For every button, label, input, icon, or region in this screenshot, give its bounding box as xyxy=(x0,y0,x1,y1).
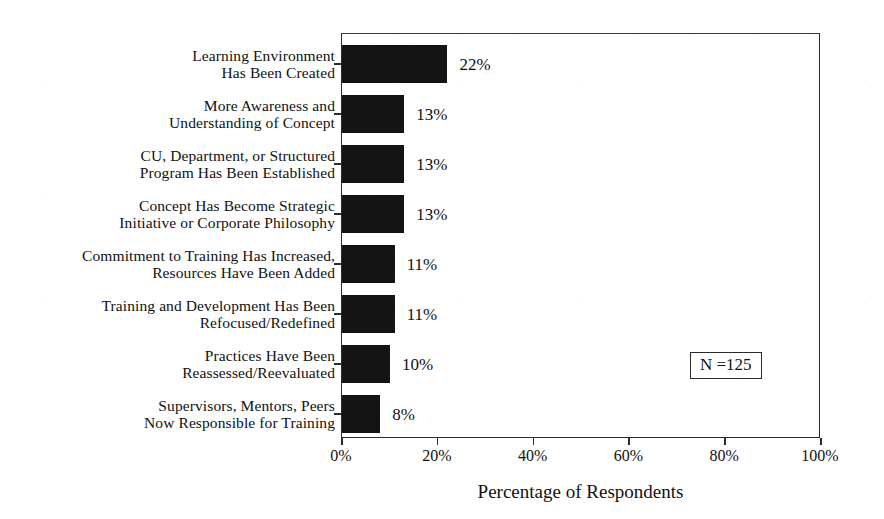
bar-value-label: 11% xyxy=(407,256,438,273)
x-axis-tick xyxy=(533,438,535,445)
x-axis-tick xyxy=(341,438,343,445)
bar-chart: Learning Environment Has Been Created22%… xyxy=(0,0,884,519)
bar-value-label: 10% xyxy=(402,356,433,373)
y-axis-tick xyxy=(334,413,342,415)
bar xyxy=(342,195,404,233)
sample-size-annotation: N =125 xyxy=(690,352,762,379)
bar-value-label: 22% xyxy=(459,56,490,73)
x-axis-tick xyxy=(724,438,726,445)
category-label: Practices Have Been Reassessed/Reevaluat… xyxy=(15,347,335,382)
chart-row: CU, Department, or Structured Program Ha… xyxy=(0,139,884,189)
bar xyxy=(342,245,395,283)
category-label: More Awareness and Understanding of Conc… xyxy=(15,97,335,132)
category-label: Training and Development Has Been Refocu… xyxy=(15,297,335,332)
category-label: CU, Department, or Structured Program Ha… xyxy=(15,147,335,182)
bar-value-label: 13% xyxy=(416,106,447,123)
bar-value-label: 8% xyxy=(392,406,415,423)
y-axis-tick xyxy=(334,113,342,115)
chart-row: Training and Development Has Been Refocu… xyxy=(0,289,884,339)
x-axis-tick-label: 60% xyxy=(614,448,643,464)
bar-value-label: 13% xyxy=(416,156,447,173)
bar-value-label: 13% xyxy=(416,206,447,223)
bar xyxy=(342,45,447,83)
y-axis-tick xyxy=(334,363,342,365)
chart-row: Concept Has Become Strategic Initiative … xyxy=(0,189,884,239)
bar xyxy=(342,395,380,433)
x-axis-tick-label: 20% xyxy=(422,448,451,464)
y-axis-tick xyxy=(334,263,342,265)
x-axis: 0%20%40%60%80%100% xyxy=(341,438,820,439)
category-label: Commitment to Training Has Increased, Re… xyxy=(15,247,335,282)
x-axis-tick xyxy=(628,438,630,445)
category-label: Concept Has Become Strategic Initiative … xyxy=(15,197,335,232)
bar xyxy=(342,345,390,383)
x-axis-tick-label: 80% xyxy=(710,448,739,464)
chart-row: Commitment to Training Has Increased, Re… xyxy=(0,239,884,289)
y-axis-tick xyxy=(334,213,342,215)
category-label: Supervisors, Mentors, Peers Now Responsi… xyxy=(15,397,335,432)
x-axis-title: Percentage of Respondents xyxy=(341,482,820,501)
chart-row: Supervisors, Mentors, Peers Now Responsi… xyxy=(0,389,884,439)
x-axis-tick xyxy=(437,438,439,445)
x-axis-tick-label: 100% xyxy=(801,448,838,464)
y-axis-tick xyxy=(334,163,342,165)
y-axis-tick xyxy=(334,63,342,65)
y-axis-tick xyxy=(334,313,342,315)
chart-row: Learning Environment Has Been Created22% xyxy=(0,39,884,89)
bar-value-label: 11% xyxy=(407,306,438,323)
x-axis-tick-label: 0% xyxy=(330,448,351,464)
bar xyxy=(342,95,404,133)
bar xyxy=(342,295,395,333)
chart-row: More Awareness and Understanding of Conc… xyxy=(0,89,884,139)
x-axis-tick xyxy=(820,438,822,445)
bar xyxy=(342,145,404,183)
x-axis-tick-label: 40% xyxy=(518,448,547,464)
category-label: Learning Environment Has Been Created xyxy=(15,47,335,82)
